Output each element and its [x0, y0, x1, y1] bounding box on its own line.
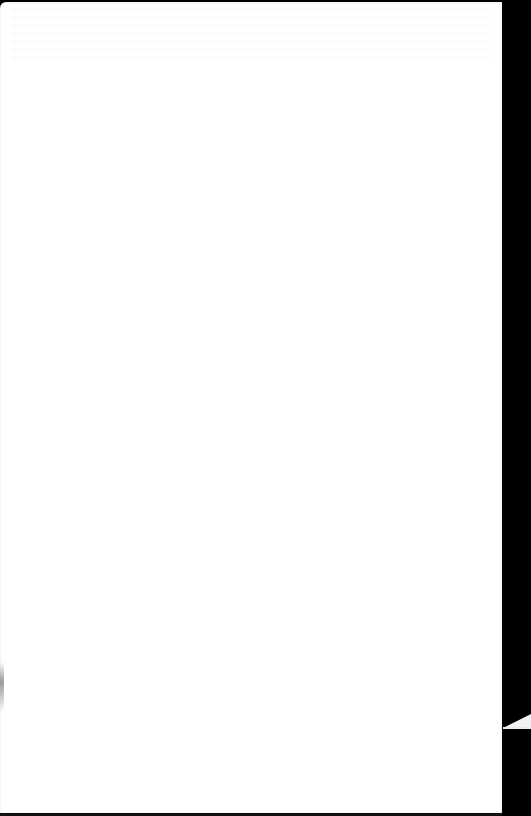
scan-frame [0, 0, 531, 816]
left-edge-mark [0, 662, 4, 712]
bleed-through-text [12, 8, 490, 64]
torn-corner-fragment [503, 714, 531, 728]
torn-corner-fragment-base [503, 727, 531, 729]
blank-page [0, 2, 502, 813]
page-text [0, 2, 1, 3]
scan-margin-right [502, 0, 531, 816]
